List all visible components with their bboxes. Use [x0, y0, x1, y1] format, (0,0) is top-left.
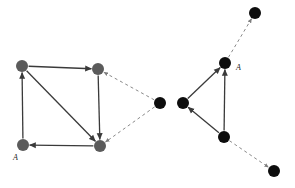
label-layer: A A — [12, 63, 241, 162]
dashed-edge-layer — [104, 19, 269, 168]
edge-rleft-to-rtop — [188, 68, 220, 99]
dashed-edge-rbottom-to-outer-br — [229, 141, 268, 168]
left-node-bottom-left[interactable] — [17, 139, 29, 151]
edge-tl-to-tr — [29, 66, 92, 68]
edge-tl-to-br — [27, 71, 96, 142]
diagram-canvas: A A — [0, 0, 295, 188]
dashed-edge-center-to-left-br — [105, 107, 154, 142]
left-node-bottom-right[interactable] — [94, 140, 106, 152]
graph-diagram-svg: A A — [0, 0, 295, 188]
center-black-node[interactable] — [154, 97, 166, 109]
right-node-left[interactable] — [177, 97, 189, 109]
edge-rbottom-to-rleft — [188, 107, 219, 133]
edge-bl-to-tl — [22, 73, 23, 139]
right-node-top[interactable] — [219, 57, 231, 69]
right-graph-label-A: A — [235, 63, 241, 72]
dashed-edge-center-to-left-tr — [104, 72, 154, 100]
edge-rbottom-to-rtop — [224, 70, 225, 131]
left-node-top-left[interactable] — [16, 60, 28, 72]
left-node-top-right[interactable] — [92, 63, 104, 75]
right-graph-edge-layer — [188, 68, 225, 133]
right-node-bottom[interactable] — [218, 131, 230, 143]
edge-br-to-bl — [30, 145, 94, 146]
outer-node-bottom-right[interactable] — [268, 165, 280, 177]
left-graph-label-A: A — [12, 153, 18, 162]
edge-tr-to-br — [98, 76, 100, 140]
left-graph-edge-layer — [22, 66, 100, 146]
dashed-edge-rtop-to-outer-tr — [228, 19, 251, 58]
center-node-layer — [154, 97, 166, 109]
outer-node-top-right[interactable] — [249, 7, 261, 19]
right-graph-node-layer — [177, 7, 280, 177]
